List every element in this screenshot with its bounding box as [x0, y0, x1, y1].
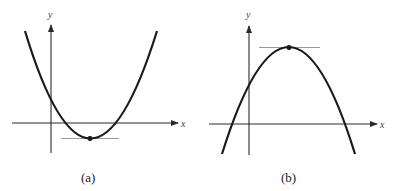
x-axis-label-b: x — [379, 119, 385, 130]
y-axis-label-b: y — [245, 9, 251, 20]
caption-b: (b) — [281, 170, 296, 185]
caption-a: (a) — [81, 170, 95, 185]
parabola-up — [25, 31, 157, 139]
y-axis-label-a: y — [47, 9, 53, 20]
maximum-point — [287, 45, 291, 49]
diagram-canvas: x y (a) x y (b) — [0, 0, 394, 191]
panel-b: x y (b) — [209, 9, 385, 185]
minimum-point — [88, 136, 92, 140]
x-axis-label-a: x — [180, 118, 186, 129]
parabola-down — [222, 47, 355, 154]
panel-a: x y (a) — [12, 9, 186, 185]
